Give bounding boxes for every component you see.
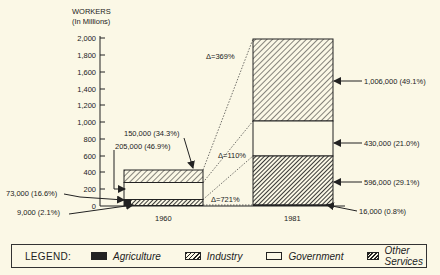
government-swatch-icon bbox=[266, 252, 282, 260]
y-axis-ticks bbox=[100, 38, 105, 189]
label-1981-other-services: 596,000 (29.1%) bbox=[364, 178, 420, 187]
bar-1960-industry bbox=[124, 170, 203, 183]
delta-other-services: Δ=721% bbox=[211, 195, 240, 204]
industry-swatch-icon bbox=[185, 252, 201, 260]
y-tick-label: 1,400 bbox=[77, 85, 96, 94]
stacked-bar-chart: WORKERS (In Millions) 2,000 1,800 1,600 … bbox=[0, 0, 440, 275]
y-tick-label: 1,800 bbox=[77, 51, 96, 60]
bar-1960-government bbox=[124, 183, 203, 200]
legend-item-agriculture: Agriculture bbox=[91, 251, 161, 262]
y-tick-label: 800 bbox=[83, 135, 96, 144]
y-tick-label: 1,600 bbox=[77, 68, 96, 77]
bar-1960 bbox=[124, 170, 203, 206]
y-tick-label: 1,000 bbox=[77, 118, 96, 127]
delta-government: Δ=110% bbox=[218, 151, 246, 160]
bar-1981-industry bbox=[253, 39, 333, 121]
arrow-1960-industry bbox=[184, 138, 193, 168]
y-tick-label: 2,000 bbox=[77, 34, 96, 43]
y-tick-label: 400 bbox=[83, 168, 96, 177]
bar-1981-government bbox=[253, 121, 333, 156]
bar-1960-other-services bbox=[124, 200, 203, 206]
y-tick-label: 600 bbox=[83, 152, 96, 161]
y-tick-label: 1,200 bbox=[77, 101, 96, 110]
label-1981-industry: 1,006,000 (49.1%) bbox=[364, 77, 426, 86]
x-label-1981: 1981 bbox=[284, 214, 301, 223]
label-1960-government: 205,000 (46.9%) bbox=[115, 142, 171, 151]
bar-1981 bbox=[253, 39, 333, 206]
other-services-swatch-icon bbox=[367, 252, 378, 260]
y-tick-label: 200 bbox=[83, 185, 96, 194]
y-axis-title: WORKERS bbox=[72, 7, 111, 16]
label-1960-industry: 150,000 (34.3%) bbox=[124, 129, 180, 138]
legend: LEGEND: Agriculture Industry Government … bbox=[11, 244, 427, 268]
agriculture-swatch-icon bbox=[91, 252, 107, 260]
label-1981-agriculture: 16,000 (0.8%) bbox=[359, 207, 407, 216]
label-1960-other-services: 73,000 (16.6%) bbox=[6, 189, 58, 198]
legend-title: LEGEND: bbox=[25, 251, 71, 262]
x-label-1960: 1960 bbox=[155, 214, 172, 223]
delta-industry: Δ=369% bbox=[206, 52, 235, 61]
delta-connectors bbox=[203, 39, 253, 205]
legend-item-other-services: Other Services bbox=[367, 245, 427, 267]
arrow-1960-other-services bbox=[64, 194, 124, 200]
label-1981-government: 430,000 (21.0%) bbox=[364, 139, 420, 148]
arrow-1960-government bbox=[114, 150, 125, 189]
y-axis-subtitle: (In Millions) bbox=[72, 17, 111, 26]
bar-1981-other-services bbox=[253, 156, 333, 205]
y-tick-label: 0 bbox=[92, 202, 96, 211]
legend-item-industry: Industry bbox=[185, 251, 243, 262]
label-1960-agriculture: 9,000 (2.1%) bbox=[17, 208, 60, 217]
legend-item-government: Government bbox=[266, 251, 343, 262]
bar-1981-agriculture bbox=[253, 205, 333, 207]
